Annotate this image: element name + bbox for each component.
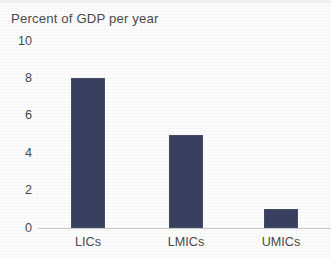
- y-axis-tick-6: 6: [2, 108, 32, 122]
- bar-chart: Percent of GDP per year 10 8 6 4 2 0 LIC…: [0, 0, 331, 258]
- x-axis-line: [38, 228, 331, 229]
- y-axis-tick-0: 0: [2, 221, 32, 235]
- y-axis-tick-8: 8: [2, 71, 32, 85]
- y-axis-tick-10: 10: [2, 34, 32, 48]
- x-axis-label-lics: LICs: [43, 234, 133, 250]
- plot-area: 10 8 6 4 2 0 LICs LMICs UMICs: [0, 0, 331, 258]
- bar-umics: [264, 209, 298, 228]
- y-axis-tick-4: 4: [2, 146, 32, 160]
- x-axis-label-umics: UMICs: [236, 234, 326, 250]
- bar-lmics: [169, 135, 203, 229]
- y-axis-tick-2: 2: [2, 183, 32, 197]
- x-axis-label-lmics: LMICs: [141, 234, 231, 250]
- bar-lics: [71, 78, 105, 228]
